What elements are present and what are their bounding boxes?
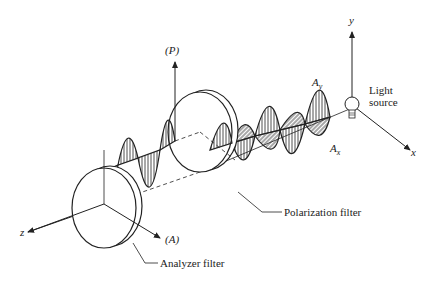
y-axis-label: y <box>348 14 354 26</box>
unpolarized-wave <box>232 90 330 160</box>
light-source-label-line2: source <box>369 96 398 108</box>
polarization-filter-label: Polarization filter <box>284 206 362 218</box>
light-bulb-icon <box>345 97 359 118</box>
polarizer-axis-label: (P) <box>165 44 179 57</box>
polarization-diagram: y x z Light source Ay Ax (P) (A) Polariz… <box>0 0 434 283</box>
light-source-label-line1: Light <box>369 84 393 96</box>
amplitude-x-label: Ax <box>329 142 341 157</box>
analyzer-axis-label: (A) <box>165 233 179 246</box>
x-axis-label: x <box>410 146 416 158</box>
analyzer-filter-leader <box>133 243 158 263</box>
amplitude-y-label: Ay <box>311 76 323 91</box>
x-axis <box>356 108 410 150</box>
z-axis-label: z <box>19 226 25 238</box>
polarization-filter-leader <box>238 192 282 212</box>
analyzer-filter-label: Analyzer filter <box>160 257 225 269</box>
